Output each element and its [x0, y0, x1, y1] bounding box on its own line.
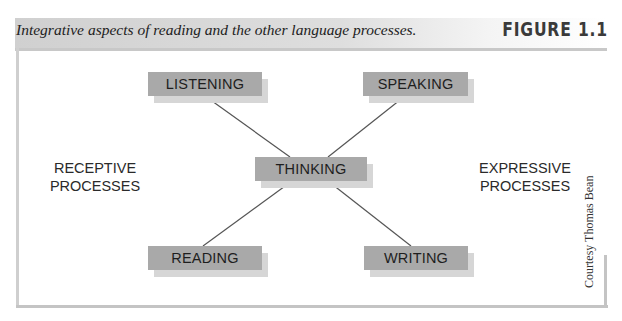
node-label: LISTENING [148, 72, 262, 96]
edge-speaking-thinking [328, 96, 405, 157]
node-writing: WRITING [364, 246, 468, 270]
receptive-processes-label: RECEPTIVE PROCESSES [40, 159, 150, 195]
edge-listening-thinking [205, 96, 290, 157]
edge-reading-thinking [203, 181, 292, 246]
node-listening: LISTENING [148, 72, 262, 96]
receptive-line1: RECEPTIVE [40, 159, 150, 177]
image-credit: Courtesy Thomas Bean [582, 176, 597, 288]
expressive-processes-label: EXPRESSIVE PROCESSES [470, 159, 580, 195]
expressive-line2: PROCESSES [470, 177, 580, 195]
node-thinking: THINKING [255, 157, 367, 181]
node-label: WRITING [364, 246, 468, 270]
receptive-line2: PROCESSES [40, 177, 150, 195]
node-label: THINKING [255, 157, 367, 181]
expressive-line1: EXPRESSIVE [470, 159, 580, 177]
node-label: SPEAKING [363, 72, 468, 96]
node-speaking: SPEAKING [363, 72, 468, 96]
node-label: READING [148, 246, 262, 270]
edge-writing-thinking [328, 181, 411, 246]
node-reading: READING [148, 246, 262, 270]
